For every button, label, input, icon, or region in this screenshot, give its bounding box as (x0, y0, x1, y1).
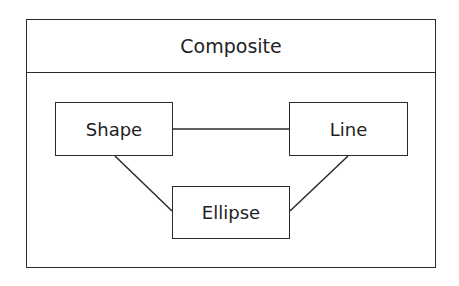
composite-title: Composite (27, 20, 435, 73)
node-line[interactable]: Line (289, 102, 408, 156)
node-ellipse[interactable]: Ellipse (172, 186, 290, 239)
node-shape[interactable]: Shape (55, 102, 173, 156)
diagram-canvas: Composite Shape Line Ellipse (0, 0, 459, 286)
